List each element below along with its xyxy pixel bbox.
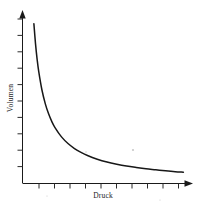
chart-canvas: Volumen Druck: [0, 0, 202, 208]
y-axis-ticks: [18, 19, 23, 167]
x-axis-ticks: [39, 184, 179, 189]
y-axis-label: Volumen: [6, 84, 15, 112]
volume-pressure-curve: [34, 24, 184, 173]
x-axis-label: Druck: [93, 191, 113, 200]
y-axis: Volumen: [6, 10, 26, 183]
chart-figure: Volumen Druck: [0, 0, 202, 208]
x-axis: Druck: [23, 180, 194, 200]
